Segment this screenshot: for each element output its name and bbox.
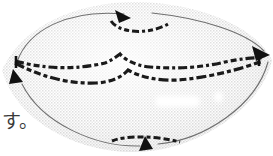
highlight-dot [214, 92, 223, 103]
lens-body-shading [2, 2, 272, 152]
caption-fragment: す。 [2, 112, 38, 131]
convection-lens-diagram [0, 0, 273, 156]
highlight-bar [155, 96, 200, 107]
figure-container: す。 [0, 0, 273, 156]
lens-body [2, 2, 272, 152]
